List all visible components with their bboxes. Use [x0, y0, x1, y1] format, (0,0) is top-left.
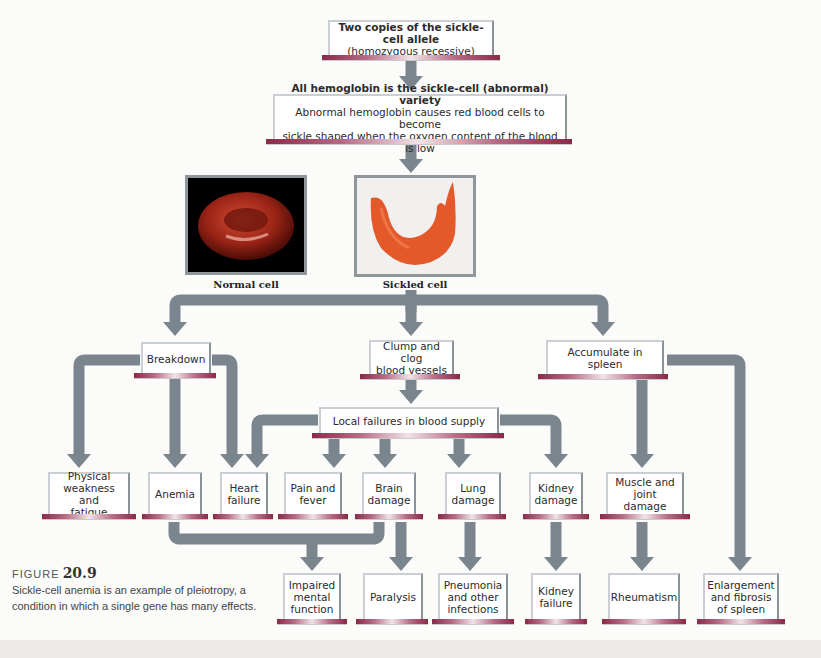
node-clump-clog: Clump and clog blood vessels [369, 340, 454, 374]
node-brain-damage-label: Brain damage [368, 482, 411, 506]
node-impaired-mental-label: Impaired mental function [289, 579, 336, 615]
node-hemoglobin-title: All hemoglobin is the sickle-cell (abnor… [279, 82, 561, 106]
node-enlargement-spleen: Enlargement and fibrosis of spleen [703, 573, 779, 619]
node-pain-fever-label: Pain and fever [291, 482, 336, 506]
figure-caption-text: Sickle-cell anemia is an example of plei… [12, 582, 262, 614]
node-kidney-failure-label: Kidney failure [538, 585, 574, 609]
node-kidney-damage-label: Kidney damage [535, 482, 578, 506]
node-rheumatism-label: Rheumatism [611, 591, 677, 603]
node-kidney-damage: Kidney damage [529, 472, 583, 514]
node-base-bar [600, 514, 690, 520]
node-base-bar [42, 514, 136, 520]
node-base-bar [360, 374, 460, 380]
node-two-copies-allele: Two copies of the sickle-cell allele (ho… [328, 20, 494, 56]
node-two-copies-title: Two copies of the sickle-cell allele [334, 21, 488, 45]
figure-label: FIGURE [12, 568, 60, 580]
node-base-bar [134, 373, 216, 379]
node-heart-failure-label: Heart failure [227, 482, 260, 506]
node-base-bar [266, 139, 572, 145]
node-base-bar [525, 619, 587, 625]
node-breakdown: Breakdown [141, 342, 211, 373]
node-kidney-failure: Kidney failure [531, 573, 581, 619]
normal-cell-caption: Normal cell [185, 279, 307, 290]
node-lung-damage-label: Lung damage [452, 482, 495, 506]
node-base-bar [432, 619, 514, 625]
node-physical-weakness: Physical weakness and fatigue [48, 472, 130, 514]
node-base-bar [356, 619, 428, 625]
node-pneumonia-label: Pneumonia and other infections [444, 579, 503, 615]
node-pain-fever: Pain and fever [284, 472, 342, 514]
node-anemia: Anemia [148, 472, 202, 514]
node-base-bar [697, 619, 785, 625]
node-heart-failure: Heart failure [220, 472, 268, 514]
node-base-bar [278, 514, 348, 520]
node-base-bar [438, 514, 506, 520]
node-paralysis: Paralysis [363, 573, 423, 619]
node-paralysis-label: Paralysis [370, 591, 416, 603]
node-rheumatism: Rheumatism [608, 573, 680, 619]
node-base-bar [213, 514, 273, 520]
figure-number: 20.9 [63, 565, 97, 581]
node-pneumonia: Pneumonia and other infections [438, 573, 508, 619]
node-lung-damage: Lung damage [445, 472, 501, 514]
normal-red-blood-cell-icon [188, 178, 304, 272]
node-enlargement-spleen-label: Enlargement and fibrosis of spleen [707, 579, 774, 615]
node-base-bar [277, 619, 347, 625]
node-brain-damage: Brain damage [362, 472, 416, 514]
node-clump-clog-label: Clump and clog blood vessels [375, 340, 448, 376]
node-base-bar [312, 433, 504, 439]
node-breakdown-label: Breakdown [147, 353, 206, 365]
node-accumulate-spleen-label: Accumulate in spleen [552, 346, 658, 370]
figure-caption: FIGURE 20.9 Sickle-cell anemia is an exa… [12, 565, 262, 614]
node-muscle-joint: Muscle and joint damage [606, 472, 684, 514]
node-local-failures: Local failures in blood supply [319, 407, 499, 433]
node-base-bar [355, 514, 423, 520]
node-anemia-label: Anemia [155, 488, 195, 500]
sickled-cell-image [354, 175, 476, 277]
normal-cell-image [185, 175, 307, 275]
diagram-stage: Two copies of the sickle-cell allele (ho… [0, 0, 821, 658]
sickled-red-blood-cell-icon [357, 178, 473, 274]
node-physical-weakness-label: Physical weakness and fatigue [54, 470, 124, 518]
node-hemoglobin-line2: Abnormal hemoglobin causes red blood cel… [279, 106, 561, 130]
node-base-bar [602, 619, 686, 625]
node-local-failures-label: Local failures in blood supply [333, 415, 485, 427]
node-muscle-joint-label: Muscle and joint damage [612, 476, 678, 512]
node-hemoglobin: All hemoglobin is the sickle-cell (abnor… [273, 94, 567, 140]
node-accumulate-spleen: Accumulate in spleen [546, 340, 664, 374]
node-base-bar [538, 374, 668, 380]
node-base-bar [142, 514, 208, 520]
node-impaired-mental: Impaired mental function [283, 573, 341, 619]
node-base-bar [322, 55, 500, 61]
node-base-bar [523, 514, 589, 520]
sickled-cell-caption: Sickled cell [354, 279, 476, 290]
